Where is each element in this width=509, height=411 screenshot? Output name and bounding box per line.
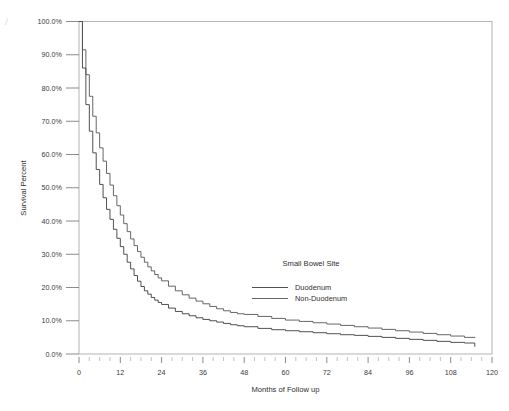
curve-duodenum — [79, 22, 475, 347]
y-tick-label: 60.0% — [42, 150, 63, 159]
x-tick-label: 108 — [445, 368, 457, 377]
y-tick-label: 100.0% — [38, 17, 63, 26]
y-axis-ticks — [66, 22, 79, 355]
x-axis-title: Months of Follow up — [252, 385, 320, 394]
curve-non-duodenum — [79, 22, 475, 339]
y-tick-label: 20.0% — [42, 283, 63, 292]
y-tick-label: 10.0% — [42, 316, 63, 325]
x-axis-tick-labels: 01224364860728496108120 — [77, 368, 498, 377]
x-tick-label: 36 — [199, 368, 207, 377]
y-tick-label: 70.0% — [42, 117, 63, 126]
chart-page: / 0.0%10.0%20.0%30.0%40.0%50.0%60.0%70.0… — [0, 0, 509, 411]
y-tick-label: 50.0% — [42, 183, 63, 192]
y-tick-label: 90.0% — [42, 50, 63, 59]
y-tick-label: 30.0% — [42, 250, 63, 259]
x-tick-label: 24 — [158, 368, 166, 377]
legend: Small Bowel Site Duodenum Non-Duodenum — [252, 259, 347, 303]
x-tick-label: 120 — [486, 368, 498, 377]
y-tick-label: 40.0% — [42, 217, 63, 226]
y-axis-title: Survival Percent — [19, 159, 28, 215]
legend-label-non-duodenum: Non-Duodenum — [295, 294, 347, 303]
y-tick-label: 0.0% — [46, 350, 63, 359]
legend-label-duodenum: Duodenum — [295, 283, 331, 292]
x-tick-label: 60 — [282, 368, 290, 377]
y-tick-label: 80.0% — [42, 84, 63, 93]
x-tick-label: 0 — [77, 368, 81, 377]
x-tick-label: 48 — [240, 368, 248, 377]
plot-frame — [79, 22, 492, 355]
legend-title: Small Bowel Site — [283, 259, 340, 268]
survival-curve-chart: 0.0%10.0%20.0%30.0%40.0%50.0%60.0%70.0%8… — [0, 0, 509, 411]
y-axis-tick-labels: 0.0%10.0%20.0%30.0%40.0%50.0%60.0%70.0%8… — [38, 17, 63, 359]
survival-curves — [79, 22, 475, 347]
x-tick-label: 84 — [364, 368, 372, 377]
x-tick-label: 72 — [323, 368, 331, 377]
x-tick-label: 12 — [116, 368, 124, 377]
x-tick-label: 96 — [405, 368, 413, 377]
